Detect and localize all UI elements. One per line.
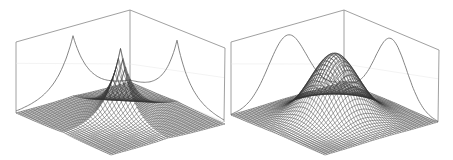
panel-left [16, 10, 225, 155]
marginal-curve [130, 40, 224, 120]
figure [0, 0, 453, 160]
axes-box [231, 10, 439, 122]
surface-mesh [231, 53, 438, 155]
surface-plots [0, 0, 453, 160]
surface-mesh [16, 49, 225, 156]
panel-right [231, 10, 439, 155]
